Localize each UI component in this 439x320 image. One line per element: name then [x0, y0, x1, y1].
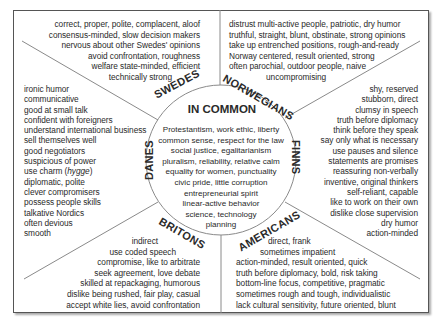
norwegians-traits: distrust multi-active people, patriotic,… — [229, 19, 424, 83]
danes-traits: ironic humor communicative good at small… — [24, 84, 159, 238]
in-common-title: IN COMMON — [172, 103, 272, 115]
britons-traits: indirect use coded speech compromise, li… — [40, 236, 200, 310]
americans-traits: direct, frank sometimes impatient action… — [236, 236, 426, 310]
finns-traits: shy, reserved stubborn, direct clumsy in… — [300, 84, 418, 238]
swedes-traits: correct, proper, polite, complacent, alo… — [40, 19, 200, 83]
in-common-list: Protestantism, work ethic, liberty commo… — [153, 125, 289, 231]
label-finns: FINNS — [290, 140, 302, 175]
